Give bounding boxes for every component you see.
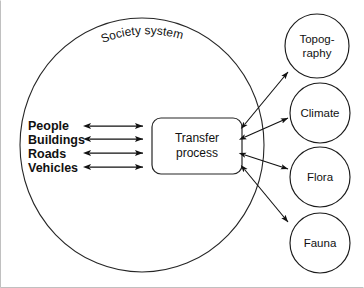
input-label-people: People [28, 119, 69, 133]
node-label-fauna: Fauna [304, 237, 337, 249]
node-label-topography-line1: Topog- [299, 33, 334, 45]
input-label-vehicles: Vehicles [28, 161, 78, 175]
input-label-buildings: Buildings [28, 133, 85, 147]
system-diagram: Society system People Buildings Roads Ve… [0, 0, 364, 288]
node-label-climate: Climate [301, 107, 340, 119]
transfer-process-line2: process [176, 146, 218, 160]
input-label-roads: Roads [28, 147, 66, 161]
node-circle-topography [285, 14, 349, 78]
node-label-flora: Flora [307, 171, 334, 183]
diagram-canvas: Society system People Buildings Roads Ve… [0, 0, 364, 288]
node-label-topography-line2: raphy [303, 47, 332, 59]
transfer-process-line1: Transfer [175, 131, 219, 145]
